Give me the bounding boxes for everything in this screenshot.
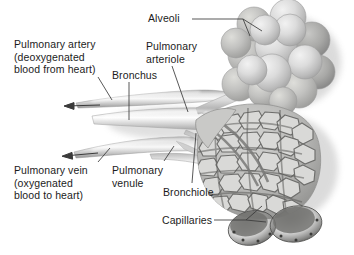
label-capillaries: Capillaries xyxy=(162,214,212,227)
label-pulmonary-venule: Pulmonary venule xyxy=(112,164,163,189)
label-pulmonary-vein: Pulmonary vein (oxygenated blood to hear… xyxy=(14,164,88,202)
capillary-network xyxy=(196,104,321,219)
leader-pulmonary-arteriole xyxy=(172,66,188,112)
label-alveoli: Alveoli xyxy=(148,12,180,25)
label-pulmonary-arteriole: Pulmonary arteriole xyxy=(146,40,197,65)
figure-canvas: Alveoli Pulmonary artery (deoxygenated b… xyxy=(0,0,354,255)
leader-pulmonary-artery xyxy=(98,77,112,100)
label-bronchiole: Bronchiole xyxy=(163,186,214,199)
label-pulmonary-artery: Pulmonary artery (deoxygenated blood fro… xyxy=(14,38,96,76)
label-bronchus: Bronchus xyxy=(112,69,157,82)
